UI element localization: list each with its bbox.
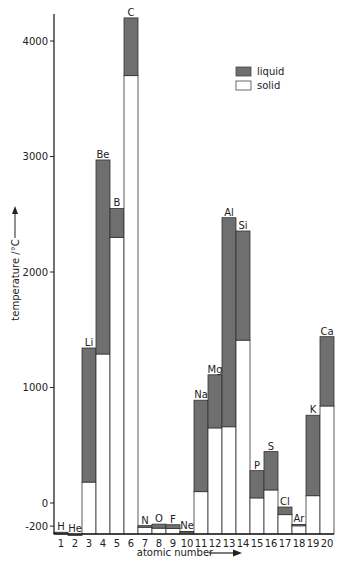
y-tick-label: -200: [25, 521, 48, 532]
bar-liquid-F: [166, 525, 180, 529]
bar-solid-Mg: [208, 428, 222, 534]
x-tick-label: 4: [100, 538, 106, 549]
x-tick-label: 1: [58, 538, 64, 549]
element-label-Ne: Ne: [180, 520, 194, 531]
bar-liquid-Ca: [320, 337, 334, 406]
bar-liquid-B: [110, 208, 124, 237]
x-tick-label: 5: [114, 538, 120, 549]
bar-liquid-Be: [96, 160, 110, 354]
x-tick-label: 16: [265, 538, 278, 549]
element-label-H: H: [57, 521, 65, 532]
element-label-B: B: [114, 197, 121, 208]
element-label-Li: Li: [85, 337, 93, 348]
x-tick-label: 18: [293, 538, 306, 549]
x-tick-label: 19: [307, 538, 320, 549]
y-tick-label: 1000: [23, 382, 48, 393]
element-label-P: P: [254, 460, 260, 471]
bar-solid-Ca: [320, 406, 334, 534]
element-label-F: F: [170, 514, 176, 525]
y-tick-label: 3000: [23, 151, 48, 162]
legend-swatch-liquid: [236, 67, 251, 76]
bar-liquid-Cl: [278, 507, 292, 515]
legend-swatch-solid: [236, 81, 251, 90]
element-label-K: K: [310, 404, 317, 415]
bar-liquid-Si: [236, 231, 250, 340]
element-label-O: O: [155, 513, 163, 524]
bar-solid-Al: [222, 427, 236, 534]
bar-liquid-K: [306, 415, 320, 496]
element-label-Mg: Mg: [208, 364, 223, 375]
bar-solid-K: [306, 496, 320, 534]
element-label-He: He: [68, 523, 82, 534]
bar-liquid-C: [124, 18, 138, 76]
bar-liquid-Li: [82, 348, 96, 482]
bar-solid-Cl: [278, 515, 292, 534]
bar-liquid-Ar: [292, 524, 306, 526]
legend-label-liquid: liquid: [257, 66, 284, 77]
bar-solid-F: [166, 528, 180, 534]
bar-liquid-N: [138, 526, 152, 528]
y-tick-label: 2000: [23, 267, 48, 278]
x-tick-label: 13: [223, 538, 236, 549]
bar-liquid-P: [250, 471, 264, 498]
element-label-Ar: Ar: [294, 513, 306, 524]
bar-solid-C: [124, 76, 138, 534]
element-label-Si: Si: [238, 220, 247, 231]
y-tick-label: 0: [42, 498, 48, 509]
bar-solid-O: [152, 528, 166, 534]
element-label-Ca: Ca: [320, 326, 333, 337]
x-axis-title: atomic number: [137, 547, 214, 558]
bar-liquid-Al: [222, 218, 236, 427]
bar-liquid-Na: [194, 400, 208, 491]
x-tick-label: 15: [251, 538, 264, 549]
y-tick-label: 4000: [23, 36, 48, 47]
bar-liquid-O: [152, 524, 166, 528]
y-axis-title: temperature /°C: [10, 239, 21, 320]
element-label-Be: Be: [96, 149, 109, 160]
x-arrow-head-icon: [233, 550, 242, 557]
bar-liquid-S: [264, 452, 278, 490]
x-tick-label: 20: [321, 538, 334, 549]
bar-solid-Si: [236, 340, 250, 534]
y-axis-title-group: temperature /°C: [10, 206, 21, 321]
y-arrow-head-icon: [12, 206, 18, 214]
bar-solid-Na: [194, 492, 208, 534]
element-label-Al: Al: [224, 207, 234, 218]
bar-solid-Li: [82, 482, 96, 534]
x-tick-label: 14: [237, 538, 250, 549]
bar-solid-N: [138, 527, 152, 534]
bar-liquid-Ne: [180, 531, 194, 533]
element-label-N: N: [141, 515, 148, 526]
element-label-Na: Na: [194, 389, 208, 400]
chart: HHeLiBeBCNOFNeNaMgAlSiPSClArKCa -2000100…: [0, 0, 347, 570]
element-label-S: S: [268, 441, 274, 452]
x-tick-label: 3: [86, 538, 92, 549]
bar-solid-Be: [96, 354, 110, 534]
y-ticks: -20001000200030004000: [23, 36, 54, 532]
x-tick-label: 17: [279, 538, 292, 549]
x-tick-label: 2: [72, 538, 78, 549]
element-label-Cl: Cl: [280, 496, 290, 507]
legend-label-solid: solid: [257, 80, 280, 91]
bar-solid-S: [264, 490, 278, 534]
bar-solid-P: [250, 498, 264, 534]
x-tick-label: 6: [128, 538, 134, 549]
bar-solid-B: [110, 237, 124, 534]
legend: liquid solid: [236, 66, 284, 91]
bar-liquid-Mg: [208, 375, 222, 428]
bars-group: [54, 18, 334, 536]
element-label-C: C: [128, 7, 135, 18]
